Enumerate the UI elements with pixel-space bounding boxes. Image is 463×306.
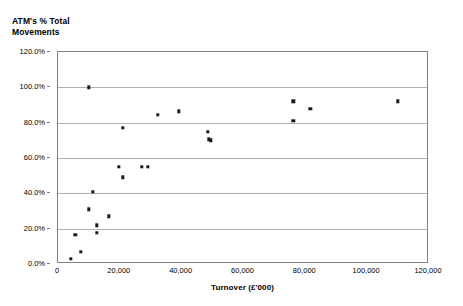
- data-point: [156, 113, 159, 116]
- x-axis-title: Turnover (£'000): [57, 283, 428, 292]
- y-tick-mark: [47, 228, 50, 229]
- plot-area: [57, 51, 428, 263]
- data-point: [146, 165, 149, 168]
- data-point: [140, 165, 143, 168]
- data-point: [87, 208, 90, 211]
- data-point: [292, 119, 295, 122]
- y-tick-label: 120.0%: [20, 47, 45, 56]
- data-point: [117, 165, 120, 168]
- y-tick-label: 40.0%: [24, 188, 45, 197]
- x-axis: 020,00040,00060,00080,000100,000120,000: [57, 266, 428, 280]
- data-point: [95, 231, 98, 234]
- data-point: [107, 215, 110, 218]
- data-point: [309, 107, 312, 110]
- gridline-y: [58, 264, 427, 265]
- x-tick-label: 0: [55, 266, 59, 275]
- y-tick-label: 20.0%: [24, 223, 45, 232]
- data-point: [79, 250, 82, 253]
- y-tick-label: 80.0%: [24, 117, 45, 126]
- y-tick-label: 60.0%: [24, 153, 45, 162]
- y-tick-mark: [47, 192, 50, 193]
- x-tick-label: 20,000: [107, 266, 130, 275]
- data-point: [121, 176, 124, 179]
- y-tick-label: 0.0%: [28, 259, 45, 268]
- x-tick-label: 100,000: [353, 266, 380, 275]
- x-tick-label: 60,000: [231, 266, 254, 275]
- chart-title: ATM's % Total Movements: [12, 16, 162, 38]
- data-point: [177, 109, 180, 112]
- data-point: [91, 190, 94, 193]
- data-point: [87, 86, 90, 89]
- y-tick-mark: [47, 122, 50, 123]
- data-point: [95, 223, 98, 226]
- data-point: [292, 100, 295, 103]
- y-tick-mark: [47, 86, 50, 87]
- data-point: [209, 139, 212, 142]
- y-tick-label: 100.0%: [20, 82, 45, 91]
- x-tick-label: 120,000: [414, 266, 441, 275]
- x-tick-label: 80,000: [293, 266, 316, 275]
- data-point: [396, 100, 399, 103]
- data-point: [74, 233, 77, 236]
- y-axis: 0.0%20.0%40.0%60.0%80.0%100.0%120.0%: [0, 51, 52, 263]
- x-tick-label: 40,000: [169, 266, 192, 275]
- y-tick-mark: [47, 263, 50, 264]
- scatter-chart: ATM's % Total Movements 0.0%20.0%40.0%60…: [0, 0, 463, 306]
- data-point: [69, 257, 72, 260]
- data-points-layer: [58, 52, 427, 262]
- data-point: [121, 126, 124, 129]
- y-tick-mark: [47, 51, 50, 52]
- data-point: [206, 130, 209, 133]
- y-tick-mark: [47, 157, 50, 158]
